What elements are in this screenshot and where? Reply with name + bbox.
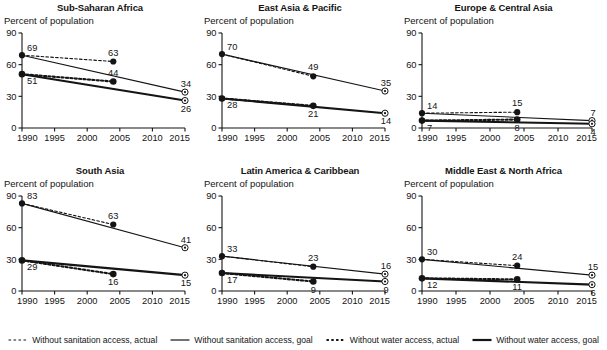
svg-text:30: 30: [6, 255, 16, 265]
svg-text:2000: 2000: [277, 133, 298, 143]
svg-text:1990: 1990: [17, 296, 38, 306]
svg-text:90: 90: [206, 28, 216, 38]
legend-item: Without water access, goal: [472, 335, 599, 345]
svg-text:7: 7: [590, 108, 595, 118]
svg-text:2005: 2005: [109, 133, 130, 143]
svg-text:51: 51: [27, 76, 37, 86]
svg-text:2015: 2015: [169, 296, 190, 306]
svg-text:90: 90: [6, 28, 16, 38]
svg-text:44: 44: [108, 68, 118, 78]
svg-text:30: 30: [406, 255, 416, 265]
svg-text:0: 0: [11, 123, 16, 133]
chart-panel: East Asia & PacificPercent of population…: [200, 0, 400, 163]
svg-text:1990: 1990: [417, 296, 438, 306]
svg-text:1990: 1990: [17, 133, 38, 143]
svg-text:30: 30: [427, 247, 437, 257]
svg-text:2000: 2000: [480, 133, 501, 143]
svg-text:1995: 1995: [244, 296, 265, 306]
svg-text:70: 70: [227, 42, 237, 52]
chart-panel: South AsiaPercent of population906030019…: [0, 163, 200, 326]
svg-text:2010: 2010: [342, 296, 363, 306]
svg-text:2005: 2005: [109, 296, 130, 306]
svg-text:16: 16: [108, 277, 118, 287]
svg-text:28: 28: [227, 100, 237, 110]
chart-figure: Sub-Saharan AfricaPercent of population9…: [0, 0, 607, 350]
legend-item: Without sanitation access, actual: [8, 335, 157, 345]
svg-text:26: 26: [181, 104, 191, 114]
svg-text:2000: 2000: [480, 296, 501, 306]
svg-text:1995: 1995: [244, 133, 265, 143]
svg-text:1995: 1995: [446, 133, 467, 143]
svg-text:2000: 2000: [277, 296, 298, 306]
svg-text:90: 90: [406, 191, 416, 201]
dashed-bold-line-swatch: [326, 336, 346, 344]
legend-label: Without water access, actual: [350, 335, 459, 345]
svg-text:60: 60: [406, 60, 416, 70]
legend-label: Without sanitation access, actual: [32, 335, 157, 345]
svg-text:90: 90: [6, 191, 16, 201]
svg-text:2010: 2010: [142, 296, 163, 306]
svg-text:2000: 2000: [77, 296, 98, 306]
svg-text:1995: 1995: [446, 296, 467, 306]
legend-label: Without sanitation access, goal: [194, 335, 312, 345]
svg-text:16: 16: [381, 261, 391, 271]
chart-panel: Sub-Saharan AfricaPercent of population9…: [0, 0, 200, 163]
svg-text:30: 30: [6, 92, 16, 102]
svg-text:2015: 2015: [169, 133, 190, 143]
panel-grid: Sub-Saharan AfricaPercent of population9…: [0, 0, 607, 326]
svg-text:60: 60: [206, 60, 216, 70]
svg-text:30: 30: [206, 92, 216, 102]
svg-text:0: 0: [211, 286, 216, 296]
svg-text:2010: 2010: [548, 296, 569, 306]
svg-text:90: 90: [206, 191, 216, 201]
svg-text:24: 24: [512, 252, 522, 262]
svg-text:60: 60: [6, 223, 16, 233]
svg-text:29: 29: [27, 262, 37, 272]
svg-text:0: 0: [211, 123, 216, 133]
svg-text:4: 4: [590, 127, 595, 137]
svg-text:69: 69: [27, 43, 37, 53]
svg-text:41: 41: [181, 235, 191, 245]
legend-item: Without water access, actual: [326, 335, 459, 345]
chart-panel: Europe & Central AsiaPercent of populati…: [400, 0, 607, 163]
legend-item: Without sanitation access, goal: [170, 335, 312, 345]
svg-text:83: 83: [27, 191, 37, 201]
svg-text:60: 60: [206, 223, 216, 233]
svg-text:9: 9: [383, 285, 388, 295]
panel-plot: 9060300199019952000200520102015332316179…: [200, 163, 400, 326]
svg-text:2015: 2015: [369, 296, 390, 306]
svg-text:2005: 2005: [514, 296, 535, 306]
svg-text:35: 35: [381, 78, 391, 88]
svg-text:30: 30: [206, 255, 216, 265]
svg-text:0: 0: [411, 123, 416, 133]
svg-text:1995: 1995: [44, 296, 65, 306]
svg-text:23: 23: [308, 253, 318, 263]
panel-plot: 9060300199019952000200520102015704935282…: [200, 0, 400, 163]
svg-text:90: 90: [406, 28, 416, 38]
svg-text:12: 12: [427, 280, 437, 290]
panel-plot: 9060300199019952000200520102015836341291…: [0, 163, 200, 326]
svg-text:30: 30: [406, 92, 416, 102]
svg-text:15: 15: [181, 278, 191, 288]
svg-text:15: 15: [512, 98, 522, 108]
svg-text:2010: 2010: [342, 133, 363, 143]
svg-text:33: 33: [227, 244, 237, 254]
svg-text:2010: 2010: [142, 133, 163, 143]
chart-panel: Middle East & North AfricaPercent of pop…: [400, 163, 607, 326]
solid-bold-line-swatch: [472, 336, 492, 344]
svg-text:1990: 1990: [217, 296, 238, 306]
svg-text:0: 0: [11, 286, 16, 296]
svg-text:49: 49: [308, 62, 318, 72]
svg-text:1995: 1995: [44, 133, 65, 143]
panel-plot: 9060300199019952000200520102015302415121…: [400, 163, 607, 326]
svg-text:60: 60: [6, 60, 16, 70]
svg-text:21: 21: [308, 109, 318, 119]
svg-text:1990: 1990: [217, 133, 238, 143]
svg-text:63: 63: [108, 48, 118, 58]
svg-text:6: 6: [590, 288, 595, 298]
svg-text:0: 0: [411, 286, 416, 296]
dashed-line-swatch: [8, 336, 28, 344]
panel-plot: 9060300199019952000200520102015696334514…: [0, 0, 200, 163]
svg-text:63: 63: [108, 211, 118, 221]
legend-label: Without water access, goal: [496, 335, 599, 345]
